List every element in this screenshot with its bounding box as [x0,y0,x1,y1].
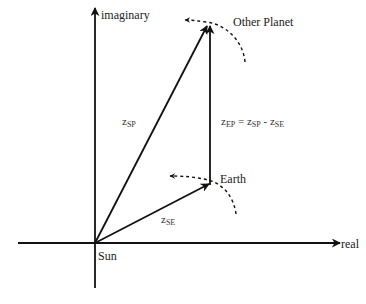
imaginary-axis-label: imaginary [101,9,150,21]
real-axis-label: real [341,238,359,250]
z-ep-equation: zEP = zSP - zSE [221,116,284,129]
earth-label: Earth [220,173,246,185]
vector-z-sp [95,26,207,243]
term1-sub: SP [252,120,261,129]
other-planet-label: Other Planet [233,16,293,28]
term2-sub: SE [275,120,284,129]
z-sp-label: zSP [122,116,136,129]
minus-sign: - [261,115,270,127]
sun-label: Sun [98,250,117,262]
z-se-sub: SE [166,218,175,227]
caption-cutoff [60,297,320,304]
vector-z-se [95,184,209,243]
z-se-label: zSE [161,214,175,227]
complex-plane-diagram [0,0,366,304]
z-ep-sub: EP [226,120,235,129]
z-sp-sub: SP [127,120,136,129]
equals-sign: = [235,115,247,127]
